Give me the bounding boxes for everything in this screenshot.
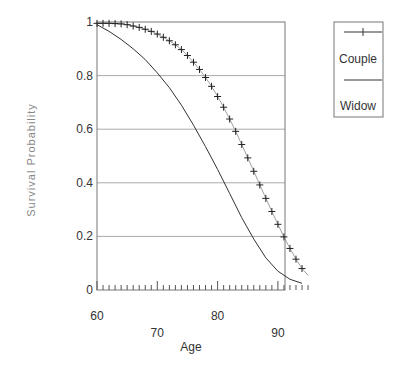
plus-marker-icon xyxy=(100,20,107,27)
x-axis-title: Age xyxy=(180,340,202,354)
plus-marker-icon xyxy=(166,37,173,44)
plus-marker-icon xyxy=(118,20,125,27)
plus-marker-icon xyxy=(130,23,137,30)
plus-marker-icon xyxy=(154,31,161,38)
plus-marker-icon xyxy=(136,24,143,31)
x-tick-label: 90 xyxy=(271,326,285,340)
plus-marker-icon xyxy=(250,168,257,175)
widow-series-line xyxy=(97,25,302,284)
plus-marker-icon xyxy=(244,154,251,161)
couple-series-line xyxy=(97,23,308,275)
plus-marker-icon xyxy=(160,34,167,41)
plus-marker-icon xyxy=(262,195,269,202)
x-axis-tick-labels: 60708090 xyxy=(90,309,285,340)
plus-marker-icon xyxy=(208,83,215,90)
gridlines xyxy=(97,76,285,237)
plus-marker-icon xyxy=(220,104,227,111)
x-tick-label: 70 xyxy=(151,326,165,340)
y-axis-title: Survival Probability xyxy=(25,103,37,217)
plus-marker-icon xyxy=(112,20,119,27)
x-tick-label: 60 xyxy=(90,309,104,323)
x-tick-label: 80 xyxy=(211,309,225,323)
legend-couple-label: Couple xyxy=(339,52,377,66)
legend: Couple Widow xyxy=(334,22,383,117)
y-tick-label: 0.6 xyxy=(76,122,93,136)
x-axis-ticks xyxy=(97,281,308,290)
y-tick-label: 0.8 xyxy=(76,69,93,83)
plus-marker-icon xyxy=(226,116,233,123)
plus-marker-icon xyxy=(214,93,221,100)
plus-marker-icon xyxy=(274,221,281,228)
y-tick-label: 1 xyxy=(86,15,93,29)
y-tick-label: 0.4 xyxy=(76,176,93,190)
plus-marker-icon xyxy=(202,74,209,81)
plus-marker-icon xyxy=(268,208,275,215)
y-axis-tick-labels: 00.20.40.60.81 xyxy=(76,15,93,297)
plus-marker-icon xyxy=(148,28,155,35)
plus-marker-icon xyxy=(106,20,113,27)
plus-marker-icon xyxy=(292,256,299,263)
plus-marker-icon xyxy=(280,233,287,240)
couple-series-markers xyxy=(94,20,306,272)
y-tick-label: 0.2 xyxy=(76,229,93,243)
legend-widow-label: Widow xyxy=(340,99,376,113)
plus-marker-icon xyxy=(238,141,245,148)
survival-chart: 00.20.40.60.81 60708090 Age Survival Pro… xyxy=(0,0,405,369)
plus-marker-icon xyxy=(286,245,293,252)
plus-marker-icon xyxy=(142,26,149,33)
y-tick-label: 0 xyxy=(86,283,93,297)
